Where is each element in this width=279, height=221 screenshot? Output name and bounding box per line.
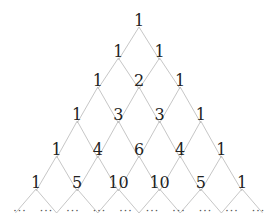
triangle-entry: 2	[134, 73, 144, 89]
triangle-entry: 1	[72, 107, 82, 123]
continuation-dots: ···	[93, 205, 107, 218]
continuation-dots: ···	[66, 205, 80, 218]
triangle-entry: 1	[155, 44, 165, 60]
continuation-dots: ···	[40, 205, 54, 218]
continuation-dots: ···	[13, 205, 27, 218]
continuation-dots: ···	[225, 205, 239, 218]
triangle-entry: 3	[155, 107, 165, 123]
continuation-dots: ···	[199, 205, 213, 218]
triangle-entry: 4	[93, 142, 103, 158]
triangle-entry: 3	[113, 107, 123, 123]
triangle-entry: 1	[134, 13, 144, 29]
triangle-entry: 1	[175, 73, 185, 89]
triangle-entry: 5	[196, 175, 206, 191]
triangle-entry: 1	[237, 175, 247, 191]
triangle-entry: 1	[31, 175, 41, 191]
triangle-entry: 6	[134, 142, 144, 158]
continuation-dots: ···	[252, 205, 266, 218]
triangle-entry: 10	[108, 175, 128, 191]
continuation-dots: ···	[172, 205, 186, 218]
triangle-entry: 10	[149, 175, 169, 191]
continuation-dots: ···	[146, 205, 160, 218]
continuation-dots: ···	[119, 205, 133, 218]
triangle-entry: 1	[216, 142, 226, 158]
triangle-entry: 5	[72, 175, 82, 191]
triangle-entry: 1	[196, 107, 206, 123]
triangle-entry: 1	[93, 73, 103, 89]
triangle-entry: 1	[113, 44, 123, 60]
triangle-entry: 1	[52, 142, 62, 158]
triangle-entry: 4	[175, 142, 185, 158]
